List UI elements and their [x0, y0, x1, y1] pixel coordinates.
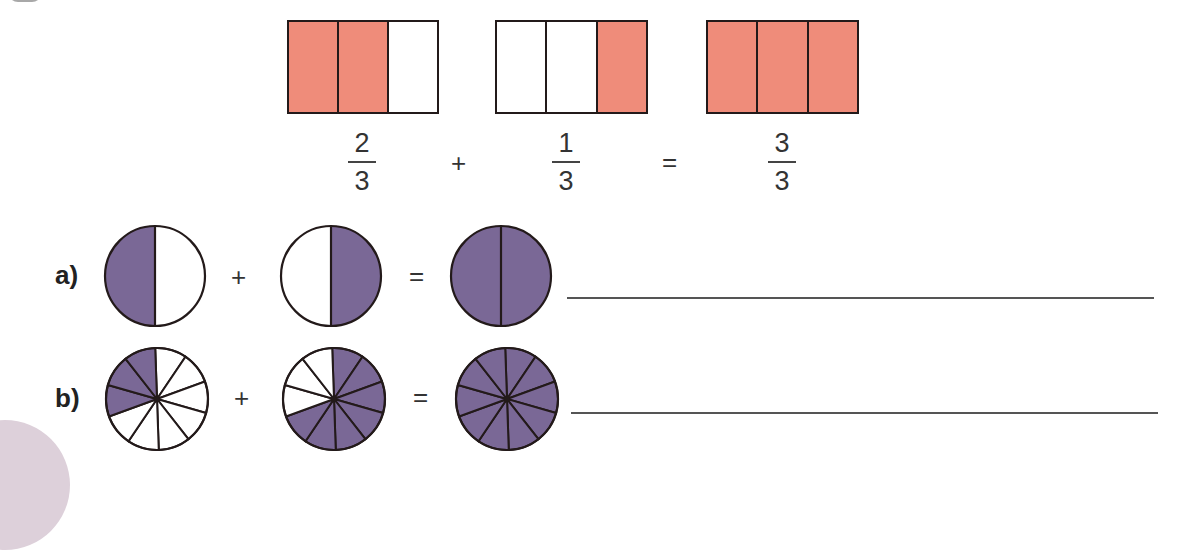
answer-line-b[interactable] [571, 412, 1158, 414]
fraction-one-third: 1 3 [546, 128, 586, 196]
bar-part-empty [547, 22, 597, 112]
fraction-two-thirds: 2 3 [342, 128, 382, 196]
answer-line-a[interactable] [567, 297, 1154, 299]
exercise-a-label: a) [55, 260, 78, 291]
fraction-bar [348, 161, 376, 163]
equals-sign: = [413, 382, 428, 413]
bar-part-shaded [758, 22, 808, 112]
plus-sign: + [231, 262, 246, 293]
tenths-circle-three-shaded [103, 345, 211, 453]
fraction-bar [768, 161, 796, 163]
equals-sign: = [409, 261, 424, 292]
half-circle-left-shaded [103, 224, 207, 328]
fraction-three-thirds: 3 3 [762, 128, 802, 196]
bar-model-two-thirds [287, 20, 439, 114]
bar-part-shaded [598, 22, 646, 112]
bar-model-one-third [495, 20, 648, 114]
denominator: 3 [762, 166, 802, 196]
bar-part-shaded [809, 22, 857, 112]
bar-part-shaded [289, 22, 339, 112]
numerator: 2 [342, 128, 382, 158]
bar-part-shaded [339, 22, 389, 112]
plus-sign: + [451, 148, 466, 179]
bar-part-shaded [708, 22, 758, 112]
plus-sign: + [234, 383, 249, 414]
numerator: 3 [762, 128, 802, 158]
tenths-circle-all-shaded [453, 345, 561, 453]
denominator: 3 [546, 166, 586, 196]
numerator: 1 [546, 128, 586, 158]
full-circle-halves [449, 224, 553, 328]
half-circle-right-shaded [279, 224, 383, 328]
tenths-circle-seven-shaded [280, 345, 388, 453]
exercise-b-label: b) [55, 383, 80, 414]
denominator: 3 [342, 166, 382, 196]
bar-part-empty [497, 22, 547, 112]
bar-model-three-thirds [706, 20, 859, 114]
fraction-bar [552, 161, 580, 163]
page-corner-decoration [0, 420, 70, 550]
equals-sign: = [662, 147, 677, 178]
bar-part-empty [389, 22, 437, 112]
page-edge-decoration [8, 0, 42, 2]
